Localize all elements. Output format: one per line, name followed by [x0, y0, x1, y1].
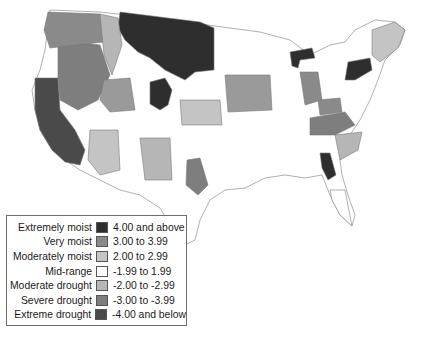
region-pacific-northwest	[44, 12, 104, 48]
legend-row: Extreme drought -4.00 and below	[7, 308, 186, 323]
legend-label: Moderate drought	[7, 280, 96, 291]
legend-label: Severe drought	[7, 295, 96, 306]
legend-swatch	[96, 236, 108, 247]
legend-range: -3.00 to -3.99	[113, 295, 175, 306]
legend-swatch	[96, 266, 108, 277]
legend-row: Moderately moist 2.00 to 2.99	[7, 249, 186, 264]
legend-swatch	[96, 222, 108, 233]
legend-range: 4.00 and above	[113, 222, 185, 233]
region-carolinas	[335, 132, 362, 160]
legend-range: 2.00 to 2.99	[113, 251, 168, 262]
legend-label: Very moist	[7, 236, 96, 247]
legend-row: Very moist 3.00 to 3.99	[7, 235, 186, 250]
legend-label: Extreme drought	[7, 309, 95, 320]
legend-swatch	[95, 309, 107, 320]
legend-swatch	[96, 251, 108, 262]
legend-swatch	[96, 295, 108, 306]
legend-row: Mid-range -1.99 to 1.99	[7, 264, 186, 279]
legend-row: Severe drought -3.00 to -3.99	[7, 293, 186, 308]
legend-swatch	[96, 280, 108, 291]
legend: Extremely moist 4.00 and above Very mois…	[6, 215, 187, 326]
legend-range: 3.00 to 3.99	[113, 236, 168, 247]
region-iowa	[225, 75, 272, 112]
region-ohio-valley	[318, 98, 342, 115]
legend-range: -4.00 and below	[112, 309, 186, 320]
legend-row: Moderate drought -2.00 to -2.99	[7, 278, 186, 293]
region-kansas	[180, 100, 222, 125]
legend-label: Extremely moist	[7, 222, 96, 233]
region-florida	[330, 190, 352, 226]
legend-label: Mid-range	[7, 266, 96, 277]
legend-row: Extremely moist 4.00 and above	[7, 220, 186, 235]
legend-range: -2.00 to -2.99	[113, 280, 175, 291]
legend-label: Moderately moist	[7, 251, 96, 262]
legend-range: -1.99 to 1.99	[113, 266, 171, 277]
region-new-mexico	[140, 138, 172, 180]
